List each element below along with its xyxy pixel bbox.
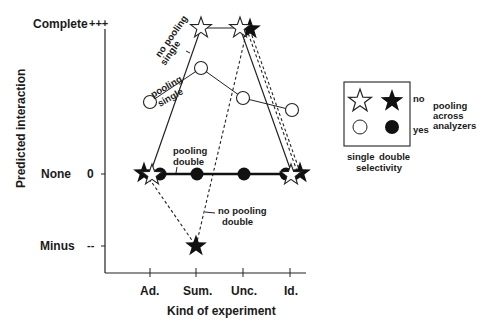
chart-canvas: Complete +++ None 0 Minus -- Predicted i… <box>0 0 486 334</box>
svg-text:double: double <box>173 156 204 167</box>
legend-col-single: single <box>347 151 374 162</box>
x-tick-id: Id. <box>284 284 298 298</box>
legend-title-3: analyzers <box>433 120 476 131</box>
annotation-pooling-double: pooling double <box>173 145 207 173</box>
y-tick-complete-mark: +++ <box>89 17 108 29</box>
annotation-no-pooling-double: no pooling double <box>205 205 267 227</box>
svg-text:double: double <box>222 216 253 227</box>
x-tick-unc: Unc. <box>231 284 257 298</box>
open-star-icon <box>191 17 212 37</box>
y-axis-title: Predicted interaction <box>14 69 28 188</box>
x-tick-sum: Sum. <box>183 284 212 298</box>
legend: no yes pooling across analyzers single d… <box>344 82 476 173</box>
legend-col-title: selectivity <box>356 162 403 173</box>
legend-open-circle-icon <box>353 120 367 134</box>
legend-filled-circle-icon <box>385 120 399 134</box>
legend-row-no: no <box>413 93 425 104</box>
legend-col-double: double <box>379 151 410 162</box>
open-circle-icon <box>286 104 299 117</box>
y-tick-complete: Complete <box>33 17 88 31</box>
x-axis-title: Kind of experiment <box>167 304 276 318</box>
filled-star-icon <box>185 235 207 256</box>
legend-box <box>344 82 410 146</box>
filled-circle-icon <box>238 168 251 181</box>
svg-text:no pooling: no pooling <box>218 205 267 216</box>
open-circle-icon <box>237 92 250 105</box>
y-tick-minus-mark: -- <box>87 239 95 251</box>
legend-filled-star-icon <box>381 89 404 111</box>
legend-row-yes: yes <box>413 124 429 135</box>
open-circle-icon <box>195 62 208 75</box>
y-tick-none-mark: 0 <box>87 167 94 181</box>
svg-text:pooling: pooling <box>173 145 207 156</box>
legend-open-star-icon <box>349 89 372 111</box>
y-tick-none: None <box>41 167 71 181</box>
y-tick-minus: Minus <box>40 239 75 253</box>
annotation-no-pooling-single: no pooling single <box>153 13 190 67</box>
filled-circle-icon <box>191 168 204 181</box>
x-tick-ad: Ad. <box>140 284 159 298</box>
